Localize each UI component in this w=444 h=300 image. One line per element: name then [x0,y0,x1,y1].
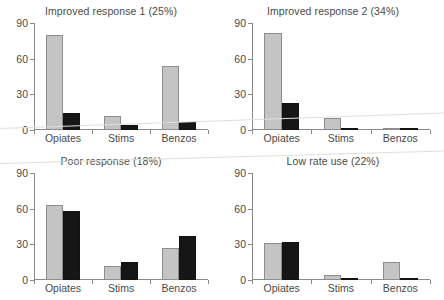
x-axis-tick [208,280,209,284]
x-axis-label-opiates: Opiates [252,132,311,144]
panel-title: Improved response 2 (34%) [222,5,444,17]
y-axis-tick-label: 90 [16,167,28,179]
bar-series_2-stims [121,262,138,280]
bar-group [46,173,80,280]
y-axis-tick-label: 30 [16,88,28,100]
y-axis-tick-label: 0 [240,124,246,136]
y-axis-tick [30,244,34,245]
bar-group [104,173,138,280]
x-axis-label-stims: Stims [92,132,150,144]
bar-series_2-opiates [63,113,80,130]
bar-series_1-opiates [264,33,281,130]
y-axis-tick-label: 60 [16,53,28,65]
y-axis-tick-label: 0 [22,124,28,136]
bar-series_2-stims [121,125,138,130]
bar-series_2-stims [341,278,358,280]
x-axis-tick [430,130,431,134]
y-axis-tick-label: 60 [234,53,246,65]
bar-group [383,23,417,130]
plot-area: 0306090OpiatesStimsBenzos [252,23,430,130]
chart-panel-improved-response-1: Improved response 1 (25%) 0306090Opiates… [0,0,222,150]
bar-series_1-benzos [162,248,179,280]
panel-title: Low rate use (22%) [222,155,444,167]
y-axis-tick [248,94,252,95]
x-axis-label-stims: Stims [92,282,150,294]
plot-area: 0306090OpiatesStimsBenzos [34,173,208,280]
panel-title: Poor response (18%) [0,155,222,167]
bar-series_2-benzos [179,236,196,280]
y-axis-tick-label: 60 [16,203,28,215]
x-axis-tick [430,280,431,284]
chart-panel-poor-response: Poor response (18%) 0306090OpiatesStimsB… [0,150,222,300]
plot-area: 0306090OpiatesStimsBenzos [252,173,430,280]
bar-group [264,173,298,280]
x-axis-label-stims: Stims [311,282,370,294]
bar-series_2-opiates [282,103,299,130]
x-axis-label-stims: Stims [311,132,370,144]
bar-series_1-benzos [383,262,400,280]
plot-area: 0306090OpiatesStimsBenzos [34,23,208,130]
y-axis-tick-label: 30 [234,238,246,250]
bar-group [324,173,358,280]
y-axis-tick [248,173,252,174]
y-axis-line [34,173,35,280]
bar-group [162,173,196,280]
y-axis-tick-label: 0 [240,274,246,286]
bar-series_1-benzos [162,66,179,130]
x-axis-label-benzos: Benzos [150,282,208,294]
y-axis-tick [30,23,34,24]
y-axis-tick [30,59,34,60]
y-axis-tick-label: 90 [16,17,28,29]
x-axis-label-benzos: Benzos [150,132,208,144]
y-axis-tick [248,59,252,60]
bar-series_1-stims [104,116,121,130]
bar-series_2-benzos [179,122,196,130]
y-axis-tick [248,209,252,210]
y-axis-tick-label: 0 [22,274,28,286]
bar-series_1-benzos [383,128,400,130]
bar-group [46,23,80,130]
bar-series_2-opiates [63,211,80,280]
chart-panel-low-rate-use: Low rate use (22%) 0306090OpiatesStimsBe… [222,150,444,300]
y-axis-line [252,173,253,280]
y-axis-tick-label: 60 [234,203,246,215]
bar-series_1-opiates [264,243,281,280]
bar-group [162,23,196,130]
x-axis-tick [208,130,209,134]
x-axis-label-opiates: Opiates [34,282,92,294]
y-axis-tick-label: 30 [16,238,28,250]
bar-series_2-benzos [400,278,417,280]
y-axis-tick [248,244,252,245]
x-axis-label-benzos: Benzos [371,132,430,144]
y-axis-tick-label: 90 [234,17,246,29]
bar-group [264,23,298,130]
y-axis-tick-label: 30 [234,88,246,100]
bar-series_2-stims [341,128,358,130]
chart-panel-grid: Improved response 1 (25%) 0306090Opiates… [0,0,444,300]
y-axis-tick [30,209,34,210]
y-axis-line [252,23,253,130]
y-axis-tick [30,94,34,95]
bar-series_1-opiates [46,35,63,130]
bar-series_1-stims [324,118,341,130]
bar-series_1-stims [324,275,341,280]
panel-title: Improved response 1 (25%) [0,5,222,17]
x-axis-label-opiates: Opiates [252,282,311,294]
bar-series_2-opiates [282,242,299,280]
x-axis-label-opiates: Opiates [34,132,92,144]
y-axis-tick [248,23,252,24]
bar-group [383,173,417,280]
bar-series_1-stims [104,266,121,280]
y-axis-tick-label: 90 [234,167,246,179]
bar-series_2-benzos [400,128,417,130]
x-axis-label-benzos: Benzos [371,282,430,294]
chart-panel-improved-response-2: Improved response 2 (34%) 0306090Opiates… [222,0,444,150]
bar-group [104,23,138,130]
y-axis-line [34,23,35,130]
y-axis-tick [30,173,34,174]
bar-series_1-opiates [46,205,63,280]
bar-group [324,23,358,130]
